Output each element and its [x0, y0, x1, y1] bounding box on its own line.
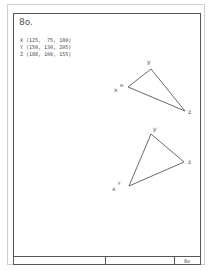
top-view-label-x: x — [114, 86, 118, 93]
title-block-cell-1 — [13, 257, 106, 265]
front-view-label-x: x — [112, 185, 116, 192]
front-view-label-y: y — [153, 125, 157, 133]
top-view-triangle: x H y z — [114, 58, 191, 115]
title-block: 8o — [13, 256, 201, 265]
top-view-label-z: z — [188, 108, 191, 115]
front-view-triangle: x F y z — [112, 125, 191, 192]
title-block-sheet-number: 8o — [174, 257, 200, 265]
title-block-cell-2 — [105, 257, 175, 265]
top-view-label-x-sup: H — [120, 83, 123, 88]
front-view-label-x-sup: F — [118, 181, 121, 186]
projection-drawing: x H y z x F y z — [0, 0, 213, 271]
top-view-label-y: y — [147, 58, 151, 66]
front-view-label-z: z — [188, 158, 191, 165]
